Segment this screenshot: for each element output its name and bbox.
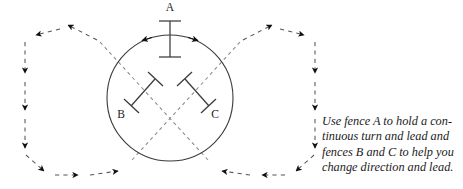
right-loop-bottom-segment-1 <box>296 155 314 171</box>
fence-b <box>124 72 163 113</box>
left-loop-bottom-segment-1 <box>26 155 44 171</box>
fence-c <box>177 72 216 113</box>
right-loop-bottom-segment-3 <box>222 171 250 175</box>
right-loop-path <box>222 25 315 175</box>
left-loop-top-segment-2 <box>36 29 60 35</box>
right-loop-top-segment-2 <box>280 29 304 35</box>
fence-c-label: C <box>211 108 219 120</box>
fence-a <box>159 21 181 57</box>
figure-caption: Use fence A to hold a con- tinuous turn … <box>322 114 463 176</box>
left-loop-top-segment-1 <box>68 25 97 40</box>
fence-a-label: A <box>166 1 175 13</box>
fence-b-label: B <box>117 108 125 120</box>
left-loop-path <box>25 25 118 175</box>
circle-crossing-dashed-lines <box>100 42 240 160</box>
circle-arrow-right <box>188 38 198 41</box>
fence-b-lower-cap <box>124 99 139 113</box>
dashed-line-bottom-right-to-top-left <box>100 42 208 160</box>
figure-container: A B C Use fence A to hold a con- tinuous… <box>0 0 463 189</box>
circle-arrow-left <box>142 38 152 41</box>
right-loop-top-segment-1 <box>243 25 272 40</box>
fence-c-post <box>185 79 209 106</box>
left-loop-bottom-segment-3 <box>90 171 118 175</box>
dashed-line-bottom-left-to-top-right <box>132 42 240 160</box>
fence-b-post <box>131 79 155 106</box>
